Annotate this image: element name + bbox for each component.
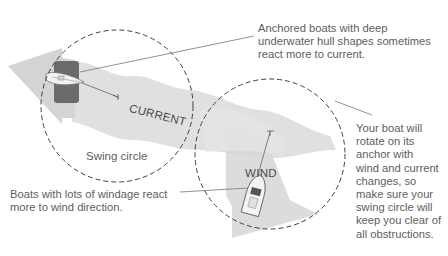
callout-line: underwater hull shapes sometimes bbox=[258, 35, 431, 48]
wind-label: WIND bbox=[245, 167, 277, 179]
callout-line: keep you clear of bbox=[356, 214, 441, 227]
leader-line-top bbox=[80, 36, 254, 72]
anchoring-diagram: CURRENT WIND Swing circle Anchored boats… bbox=[0, 0, 448, 256]
callout-windage: Boats with lots of windage react more to… bbox=[10, 188, 167, 214]
callout-line: Boats with lots of windage react bbox=[10, 188, 167, 201]
callout-line: changes, so bbox=[356, 175, 441, 188]
callout-line: more to wind direction. bbox=[10, 201, 167, 214]
callout-line: Anchored boats with deep bbox=[258, 22, 431, 35]
callout-line: wind and current bbox=[356, 162, 441, 175]
callout-line: make sure your bbox=[356, 188, 441, 201]
callout-line: react more to current. bbox=[258, 48, 431, 61]
callout-line: anchor with bbox=[356, 148, 441, 161]
callout-line: rotate on its bbox=[356, 135, 441, 148]
swing-circle-label: Swing circle bbox=[86, 150, 147, 163]
callout-swing-advice: Your boat will rotate on its anchor with… bbox=[356, 122, 441, 241]
callout-line: swing circle will bbox=[356, 201, 441, 214]
leader-line-right bbox=[335, 101, 372, 115]
callout-deep-hull: Anchored boats with deep underwater hull… bbox=[258, 22, 431, 61]
callout-line: Your boat will bbox=[356, 122, 441, 135]
callout-line: all obstructions. bbox=[356, 228, 441, 241]
